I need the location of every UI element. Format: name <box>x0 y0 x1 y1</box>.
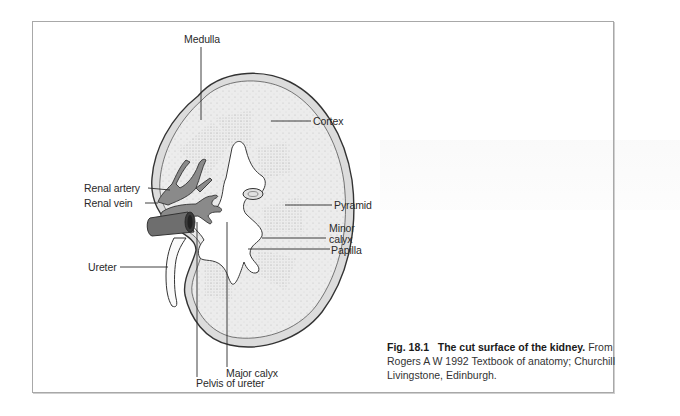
label-renal-vein: Renal vein <box>84 197 133 209</box>
caption-title: The cut surface of the kidney. <box>438 341 585 353</box>
label-ureter: Ureter <box>88 261 117 273</box>
ureter-shape <box>166 238 186 307</box>
caption-source-3: Livingstone, Edinburgh. <box>387 369 497 381</box>
figure-caption: Fig. 18.1 The cut surface of the kidney.… <box>387 340 617 382</box>
label-medulla: Medulla <box>184 33 220 45</box>
minor-calyx-shape <box>243 189 263 200</box>
caption-source-2: Rogers A W 1992 Textbook of anatomy; Chu… <box>387 355 615 367</box>
caption-source-1: From <box>588 341 613 353</box>
renal-vein-shape <box>147 212 195 236</box>
label-papilla: Papilla <box>331 244 362 256</box>
label-pyramid: Pyramid <box>334 199 372 211</box>
label-cortex: Cortex <box>313 115 343 127</box>
label-pelvis-of-ureter: Pelvis of ureter <box>196 377 264 389</box>
label-renal-artery: Renal artery <box>84 182 140 194</box>
caption-number: Fig. 18.1 <box>387 341 429 353</box>
